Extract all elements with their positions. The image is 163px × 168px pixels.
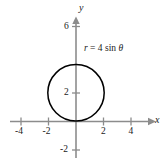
- x-axis: [10, 118, 156, 126]
- y-axis-arrowhead: [72, 17, 79, 25]
- y-axis-label: y: [79, 3, 83, 13]
- y-tick-label--2: -2: [60, 145, 68, 155]
- equation-theta-symbol: θ: [118, 43, 123, 53]
- curve-equation-label: r = 4 sin θ: [84, 44, 123, 54]
- y-tick-label-6: 6: [64, 22, 69, 32]
- y-axis: [72, 17, 80, 159]
- plot-canvas: [0, 0, 163, 168]
- y-tick-label-2: 2: [64, 88, 69, 98]
- equation-assign: = 4: [90, 43, 102, 53]
- x-tick-label--2: -2: [43, 127, 51, 137]
- x-tick-label--4: -4: [15, 127, 23, 137]
- polar-graph-figure: y x -4 -2 2 4 6 2 -2 r = 4 sin θ: [0, 0, 163, 168]
- x-tick-label-4: 4: [129, 127, 134, 137]
- equation-sin-function: sin: [105, 43, 116, 53]
- x-tick-label-2: 2: [101, 127, 106, 137]
- x-axis-label: x: [155, 115, 159, 125]
